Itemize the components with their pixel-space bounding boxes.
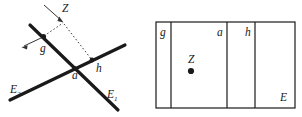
- figure-container: E2 E1 a h g Z g a h E Z: [0, 0, 302, 117]
- label-E2: E2: [9, 83, 21, 98]
- point-h-marker: [90, 58, 95, 63]
- label-a-cell: a: [217, 26, 223, 38]
- label-g-cell: g: [160, 26, 166, 39]
- left-panel-group: E2 E1 a h g Z: [9, 2, 125, 110]
- label-Z-left: Z: [62, 2, 69, 14]
- figure-svg: E2 E1 a h g Z g a h E Z: [0, 0, 302, 117]
- label-g-left: g: [40, 42, 46, 55]
- label-h-left: h: [96, 62, 102, 74]
- dotted-segment-g-to-Z: [44, 23, 63, 36]
- label-h-cell: h: [245, 26, 251, 38]
- right-panel-group: g a h E Z: [156, 22, 295, 108]
- label-E-cell: E: [279, 91, 287, 103]
- point-Z-marker-right: [188, 68, 194, 74]
- dotted-segment-Z-to-h: [64, 24, 92, 60]
- arrow-from-g-shaft: [24, 38, 41, 46]
- label-Z-cell: Z: [188, 53, 195, 65]
- label-a-left: a: [72, 69, 78, 81]
- point-g-marker: [41, 34, 46, 39]
- rectangle-E-outline: [156, 22, 295, 108]
